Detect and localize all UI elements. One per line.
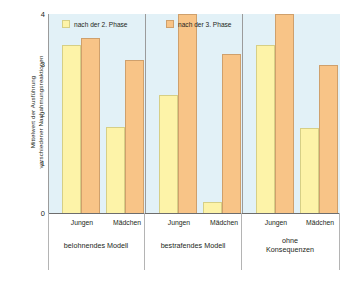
bar-bestrafendes-maedchen-phase2 (203, 202, 222, 213)
legend-item-phase-2: nach der 2. Phase (62, 20, 128, 28)
legend-label-phase-3: nach der 3. Phase (178, 21, 232, 28)
bar-belohnendes-maedchen-phase3 (125, 60, 144, 213)
plot-area (48, 14, 340, 213)
y-tick-2: 2 (31, 109, 45, 118)
y-tick-1: 1 (31, 159, 45, 168)
group-label-belohnendes-modell: belohnendes Modell (42, 241, 150, 250)
y-tick-4: 4 (31, 10, 45, 19)
bar-ohne-maedchen-phase2 (300, 128, 319, 213)
bar-bestrafendes-maedchen-phase3 (222, 54, 241, 213)
legend-label-phase-2: nach der 2. Phase (74, 21, 128, 28)
yellow-swatch-icon (62, 20, 70, 28)
legend-item-phase-3: nach der 3. Phase (166, 20, 232, 28)
x-label-bestrafendes-maedchen: Mädchen (197, 219, 251, 226)
bar-ohne-jungen-phase3 (275, 14, 294, 213)
panel-separator-2 (242, 14, 243, 213)
x-axis-baseline (48, 213, 340, 214)
group-label-bestrafendes-modell: bestrafendes Modell (139, 241, 247, 250)
bar-ohne-jungen-phase2 (256, 45, 275, 213)
group-label-ohne-konsequenzen: ohne Konsequenzen (236, 236, 344, 254)
bar-bestrafendes-jungen-phase3 (178, 14, 197, 213)
y-tick-3: 3 (31, 59, 45, 68)
bar-ohne-maedchen-phase3 (319, 65, 338, 213)
panel-separator-1 (145, 14, 146, 213)
y-tick-0: 0 (31, 209, 45, 218)
bar-belohnendes-maedchen-phase2 (106, 127, 125, 213)
x-label-belohnendes-maedchen: Mädchen (100, 219, 154, 226)
orange-swatch-icon (166, 20, 174, 28)
bar-bestrafendes-jungen-phase2 (159, 95, 178, 213)
bar-chart-figure: Mittelwert der Ausführung verschiedener … (0, 0, 353, 283)
bar-belohnendes-jungen-phase2 (62, 45, 81, 213)
bar-belohnendes-jungen-phase3 (81, 38, 100, 213)
